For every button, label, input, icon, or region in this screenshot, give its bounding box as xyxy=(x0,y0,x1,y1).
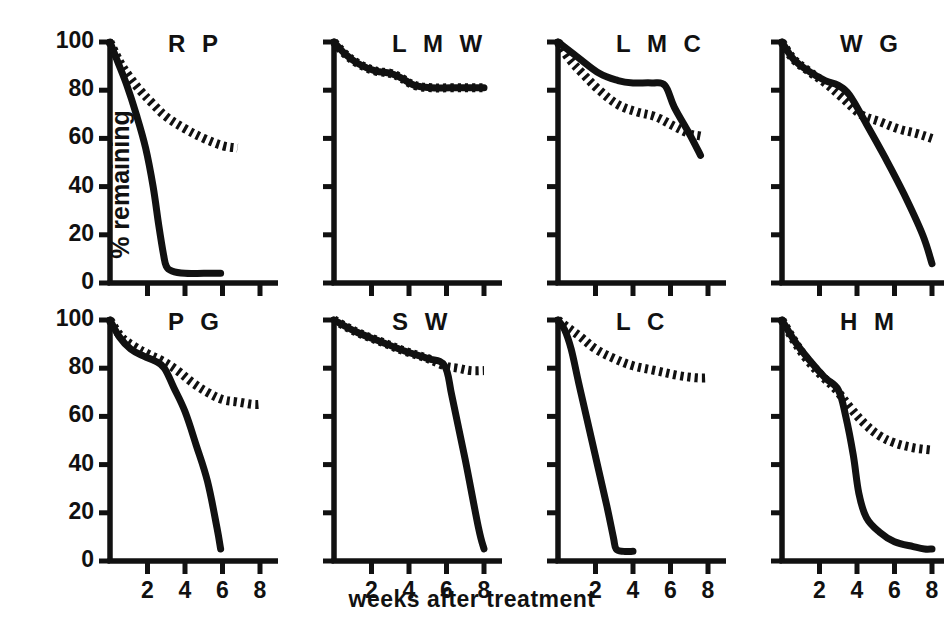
panel-pg xyxy=(99,317,278,574)
panel-lc xyxy=(547,317,726,574)
x-tick-label: 6 xyxy=(427,577,467,604)
x-tick-label: 4 xyxy=(165,577,205,604)
panel-lmw xyxy=(323,39,502,296)
y-tick-label: 60 xyxy=(18,401,94,428)
x-tick-label: 4 xyxy=(837,577,877,604)
panel-title: R P xyxy=(168,30,223,58)
y-tick-label: 100 xyxy=(18,27,94,54)
panel-lmc xyxy=(547,39,726,296)
panel-sw xyxy=(323,317,502,574)
y-tick-label: 80 xyxy=(18,75,94,102)
series-solid xyxy=(782,42,932,264)
panel-hm xyxy=(771,317,944,574)
x-tick-label: 8 xyxy=(240,577,280,604)
panel-title: L M W xyxy=(392,30,487,58)
figure-panel-grid: % remaining weeks after treatment R PL M… xyxy=(0,0,944,626)
y-tick-label: 0 xyxy=(18,546,94,573)
y-tick-label: 20 xyxy=(18,498,94,525)
panel-title: H M xyxy=(840,308,899,336)
y-tick-label: 40 xyxy=(18,450,94,477)
x-tick-label: 8 xyxy=(688,577,728,604)
x-tick-label: 6 xyxy=(875,577,915,604)
panel-wg xyxy=(771,39,944,296)
y-tick-label: 20 xyxy=(18,220,94,247)
panel-title: S W xyxy=(392,308,452,336)
panel-title: W G xyxy=(840,30,903,58)
x-tick-label: 2 xyxy=(576,577,616,604)
series-solid xyxy=(110,320,221,549)
x-tick-label: 6 xyxy=(203,577,243,604)
multi-panel-line-chart xyxy=(0,0,944,626)
x-tick-label: 2 xyxy=(800,577,840,604)
x-tick-label: 8 xyxy=(912,577,944,604)
panel-title: L M C xyxy=(616,30,706,58)
series-solid xyxy=(558,320,633,552)
x-tick-label: 8 xyxy=(464,577,504,604)
series-hatched xyxy=(782,320,932,450)
panel-title: P G xyxy=(168,308,224,336)
x-tick-label: 2 xyxy=(352,577,392,604)
y-tick-label: 0 xyxy=(18,268,94,295)
x-tick-label: 4 xyxy=(613,577,653,604)
y-tick-label: 100 xyxy=(18,305,94,332)
series-solid xyxy=(558,42,701,155)
y-tick-label: 80 xyxy=(18,353,94,380)
x-tick-label: 2 xyxy=(128,577,168,604)
y-axis-label: % remaining xyxy=(106,75,135,295)
x-tick-label: 6 xyxy=(651,577,691,604)
series-solid xyxy=(782,320,932,549)
x-tick-label: 4 xyxy=(389,577,429,604)
y-tick-label: 60 xyxy=(18,123,94,150)
panel-title: L C xyxy=(616,308,669,336)
y-tick-label: 40 xyxy=(18,172,94,199)
